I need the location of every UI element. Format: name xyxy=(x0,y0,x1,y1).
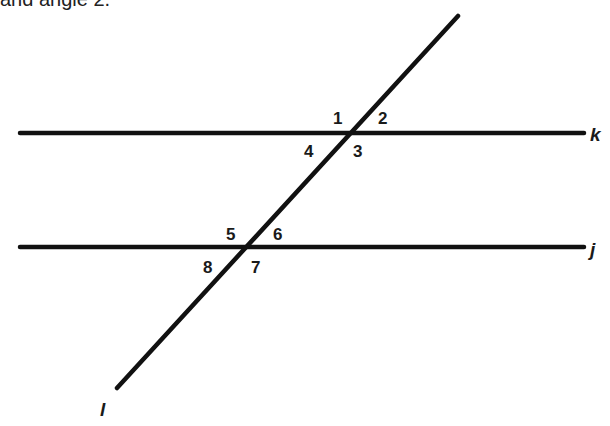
parallel-lines-diagram: k j l 1 2 3 4 5 6 7 8 xyxy=(0,0,610,426)
angle-6: 6 xyxy=(273,225,282,244)
angle-8: 8 xyxy=(203,258,212,277)
label-j: j xyxy=(587,239,596,260)
angle-4: 4 xyxy=(304,142,314,161)
angle-1: 1 xyxy=(333,109,342,128)
angle-7: 7 xyxy=(251,258,260,277)
angle-5: 5 xyxy=(226,225,235,244)
angle-2: 2 xyxy=(378,109,387,128)
label-l: l xyxy=(100,399,106,420)
label-k: k xyxy=(590,124,602,145)
transversal-l xyxy=(117,16,458,388)
angle-3: 3 xyxy=(353,142,362,161)
